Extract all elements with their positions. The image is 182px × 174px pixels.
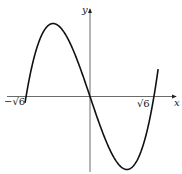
pos-root-label: √6 <box>137 98 150 109</box>
cubic-graph: y x −√6 √6 <box>0 0 182 174</box>
y-axis-label: y <box>81 4 88 15</box>
x-axis-label: x <box>174 97 180 108</box>
neg-root-label: −√6 <box>4 96 25 107</box>
